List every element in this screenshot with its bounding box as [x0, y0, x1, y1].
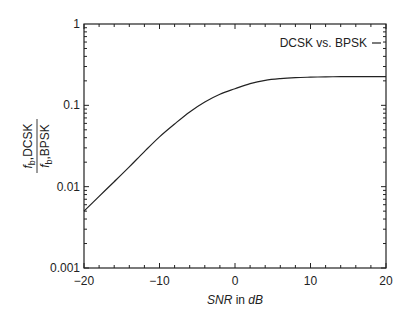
y-den-text: ,BPSK — [38, 124, 52, 159]
y-tick-labels: 0.0010.010.11 — [50, 17, 80, 275]
y-axis-title: fb,DCSK fb,BPSK — [21, 119, 54, 173]
y-tick-label: 0.001 — [50, 261, 80, 275]
y-axis-title-denominator: fb,BPSK — [38, 124, 54, 168]
y-axis-title-numerator: fb,DCSK — [21, 123, 37, 168]
y-num-text: ,DCSK — [21, 123, 35, 160]
x-tick-labels: −20−1001020 — [74, 274, 393, 288]
chart: −20−1001020 0.0010.010.11 DCSK vs. BPSK … — [0, 0, 407, 315]
x-axis-title-in: in — [232, 293, 248, 307]
y-tick-label: 0.01 — [57, 180, 81, 194]
x-tick-label: 20 — [379, 274, 393, 288]
x-tick-label: 10 — [304, 274, 318, 288]
y-tick-label: 1 — [73, 17, 80, 31]
x-tick-label: 0 — [232, 274, 239, 288]
x-axis-title-snr: SNR — [207, 293, 233, 307]
plot-frame — [84, 24, 386, 268]
x-tick-label: −20 — [74, 274, 95, 288]
x-axis-title: SNR in dB — [207, 293, 263, 307]
legend-label: DCSK vs. BPSK — [280, 36, 367, 50]
legend: DCSK vs. BPSK — [280, 36, 381, 50]
series-line-dcsk-vs-bpsk — [84, 77, 386, 211]
x-tick-label: −10 — [149, 274, 170, 288]
axis-ticks — [84, 24, 386, 268]
x-axis-title-db: dB — [248, 293, 263, 307]
y-tick-label: 0.1 — [63, 98, 80, 112]
